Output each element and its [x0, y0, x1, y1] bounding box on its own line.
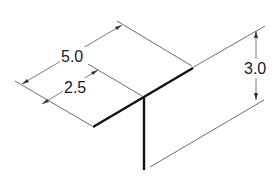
extension-line-5-0-top [117, 21, 192, 66]
extension-line-right-bottom [150, 100, 264, 167]
arrow-3-0-bottom [254, 93, 258, 100]
drawing-canvas: 5.0 2.5 3.0 [0, 0, 280, 181]
extension-lines [15, 21, 265, 167]
dimension-lines [22, 25, 258, 104]
arrow-5-0-start [22, 79, 29, 84]
arrow-2-5-end [91, 70, 98, 75]
arrow-5-0-end [115, 25, 122, 30]
part-geometry [93, 68, 193, 170]
label-5-0: 5.0 [61, 48, 83, 65]
label-3-0: 3.0 [244, 60, 266, 77]
label-2-5: 2.5 [64, 79, 86, 96]
extension-line-2-5-top [88, 64, 142, 96]
